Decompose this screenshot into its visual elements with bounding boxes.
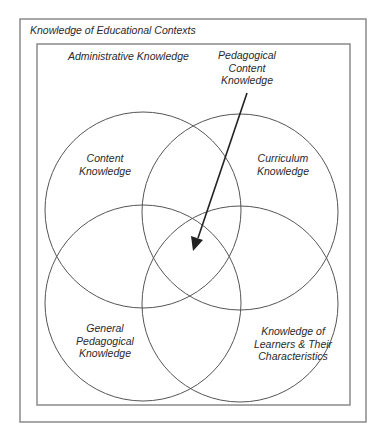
general-pedagogical-knowledge-label: General Pedagogical Knowledge xyxy=(65,322,145,360)
diagram-graphics xyxy=(0,0,385,438)
learners-knowledge-label: Knowledge of Learners & Their Characteri… xyxy=(243,325,343,363)
content-knowledge-label: Content Knowledge xyxy=(70,152,140,177)
curriculum-knowledge-label: Curriculum Knowledge xyxy=(248,152,318,177)
pointer-label: Pedagogical Content Knowledge xyxy=(212,49,282,87)
arrow-head-icon xyxy=(191,236,203,251)
circle-general-pedagogical-knowledge xyxy=(45,205,241,401)
inner-frame-label: Administrative Knowledge xyxy=(68,50,189,63)
venn-diagram: Knowledge of Educational Contexts Admini… xyxy=(0,0,385,438)
arrow-line xyxy=(198,93,247,238)
circle-curriculum-knowledge xyxy=(142,114,338,310)
outer-frame-label: Knowledge of Educational Contexts xyxy=(30,24,196,37)
